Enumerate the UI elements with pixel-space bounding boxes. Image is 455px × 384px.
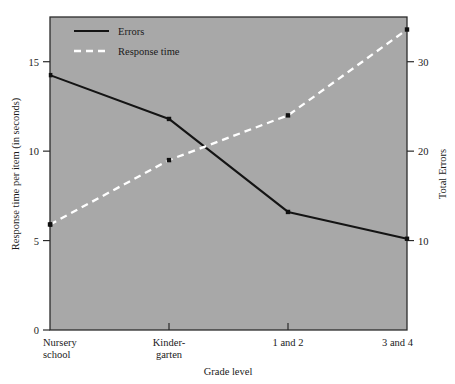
x-category-label: 3 and 4 bbox=[382, 337, 414, 348]
right-axis-tick-labels: 102030 bbox=[418, 57, 429, 247]
right-axis-ticks bbox=[407, 62, 414, 241]
x-category-label: school bbox=[43, 349, 70, 360]
data-point-marker bbox=[405, 237, 409, 241]
data-point-marker bbox=[286, 210, 290, 214]
chart-figure: 051015 Response time per item (in second… bbox=[0, 0, 455, 384]
x-category-label: garten bbox=[156, 349, 183, 360]
data-point-marker bbox=[49, 73, 53, 77]
left-tick-label: 5 bbox=[34, 236, 39, 247]
right-axis-title: Total Errors bbox=[437, 149, 448, 199]
left-tick-label: 0 bbox=[34, 325, 39, 336]
line-chart-svg: 051015 Response time per item (in second… bbox=[0, 0, 455, 384]
x-axis-category-labels: NurseryschoolKinder-garten1 and 23 and 4 bbox=[43, 337, 414, 360]
plot-area bbox=[50, 17, 407, 330]
left-axis-ticks bbox=[43, 62, 50, 330]
left-axis-title: Response time per item (in seconds) bbox=[10, 97, 22, 250]
right-tick-label: 20 bbox=[418, 146, 429, 157]
left-axis-tick-labels: 051015 bbox=[29, 57, 40, 336]
data-point-marker bbox=[286, 113, 290, 117]
x-category-label: Nursery bbox=[43, 337, 78, 348]
legend-label: Response time bbox=[118, 46, 180, 57]
data-point-marker bbox=[405, 27, 409, 31]
right-axis: 102030 Total Errors bbox=[407, 57, 448, 247]
x-axis-title: Grade level bbox=[204, 366, 253, 377]
data-point-marker bbox=[167, 117, 171, 121]
right-tick-label: 30 bbox=[418, 57, 429, 68]
left-tick-label: 10 bbox=[29, 146, 40, 157]
data-point-marker bbox=[167, 158, 171, 162]
legend-label: Errors bbox=[118, 26, 144, 37]
x-category-label: 1 and 2 bbox=[273, 337, 304, 348]
right-tick-label: 10 bbox=[418, 236, 429, 247]
data-point-marker bbox=[49, 222, 53, 226]
x-axis: NurseryschoolKinder-garten1 and 23 and 4… bbox=[43, 323, 414, 377]
left-axis: 051015 Response time per item (in second… bbox=[10, 57, 50, 336]
left-tick-label: 15 bbox=[29, 57, 40, 68]
x-category-label: Kinder- bbox=[153, 337, 186, 348]
